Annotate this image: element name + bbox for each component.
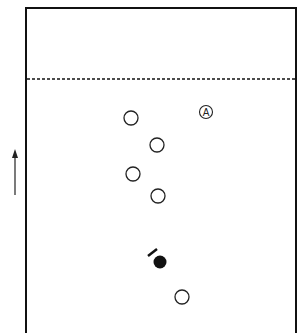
direction-arrow-icon	[12, 149, 18, 195]
player-circle	[124, 111, 138, 125]
labeled-player-a: A	[200, 106, 213, 119]
player-circle	[126, 167, 140, 181]
player-circle	[175, 290, 189, 304]
filled-player	[154, 256, 167, 269]
drill-diagram: A	[0, 0, 305, 333]
field-boundary	[26, 8, 296, 333]
stick-mark	[148, 249, 157, 256]
open-circles	[124, 111, 189, 304]
player-circle	[150, 138, 164, 152]
player-label: A	[203, 107, 210, 118]
player-circle	[151, 189, 165, 203]
